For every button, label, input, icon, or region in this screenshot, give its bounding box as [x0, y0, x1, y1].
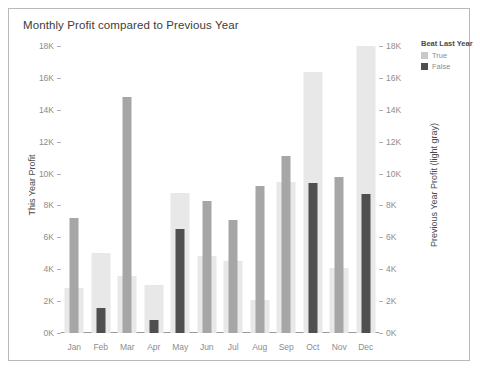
- x-axis-label-oct: Oct: [306, 342, 319, 352]
- right-axis-tick-label: 18K: [386, 41, 401, 51]
- left-axis-tick-label: 14K: [39, 105, 54, 115]
- left-axis-tick-mark: [57, 333, 61, 334]
- this-year-bar[interactable]: [202, 201, 211, 333]
- legend-swatch-icon: [421, 52, 428, 59]
- x-axis-label-jan: Jan: [67, 342, 81, 352]
- right-axis-tick-label: 2K: [386, 296, 396, 306]
- this-year-bar[interactable]: [70, 218, 79, 333]
- x-axis-label-aug: Aug: [252, 342, 267, 352]
- this-year-bar[interactable]: [282, 156, 291, 333]
- bar-slot-aug[interactable]: Aug: [247, 46, 274, 333]
- left-axis-tick-label: 8K: [44, 200, 54, 210]
- this-year-bar[interactable]: [229, 220, 238, 333]
- legend-item-false[interactable]: False: [421, 62, 480, 71]
- left-axis-title: This Year Profit: [27, 154, 37, 215]
- left-axis-tick-label: 6K: [44, 232, 54, 242]
- this-year-bar[interactable]: [176, 229, 185, 333]
- x-axis-label-sep: Sep: [279, 342, 294, 352]
- this-year-bar[interactable]: [335, 177, 344, 333]
- bar-slot-dec[interactable]: Dec: [353, 46, 380, 333]
- right-axis-tick-label: 6K: [386, 232, 396, 242]
- x-axis-label-dec: Dec: [358, 342, 373, 352]
- bar-slot-jun[interactable]: Jun: [194, 46, 221, 333]
- this-year-bar[interactable]: [308, 183, 317, 333]
- bar-slot-nov[interactable]: Nov: [326, 46, 353, 333]
- legend-item-label: True: [432, 51, 447, 60]
- legend-items: TrueFalse: [421, 51, 480, 71]
- left-axis-tick-label: 10K: [39, 169, 54, 179]
- x-axis-label-jul: Jul: [228, 342, 239, 352]
- chart-frame: Monthly Profit compared to Previous Year…: [8, 8, 470, 361]
- left-axis-tick-label: 16K: [39, 73, 54, 83]
- this-year-bar[interactable]: [96, 308, 105, 334]
- right-axis-tick-mark: [379, 333, 383, 334]
- x-axis-label-jun: Jun: [200, 342, 214, 352]
- right-axis-tick-label: 12K: [386, 137, 401, 147]
- legend-title: Beat Last Year: [421, 39, 480, 48]
- left-axis-tick-label: 18K: [39, 41, 54, 51]
- right-axis-tick-label: 0K: [386, 328, 396, 338]
- left-axis-tick-label: 12K: [39, 137, 54, 147]
- bar-slot-oct[interactable]: Oct: [300, 46, 327, 333]
- x-axis-label-feb: Feb: [93, 342, 108, 352]
- bar-slot-may[interactable]: May: [167, 46, 194, 333]
- this-year-bar[interactable]: [255, 186, 264, 333]
- right-axis-tick-label: 14K: [386, 105, 401, 115]
- legend-item-label: False: [432, 62, 450, 71]
- right-axis-tick-label: 10K: [386, 169, 401, 179]
- this-year-bar[interactable]: [123, 97, 132, 333]
- legend-item-true[interactable]: True: [421, 51, 480, 60]
- bar-slot-sep[interactable]: Sep: [273, 46, 300, 333]
- right-axis-tick-mark: [379, 110, 383, 111]
- right-axis-tick-label: 4K: [386, 264, 396, 274]
- right-axis-tick-mark: [379, 174, 383, 175]
- legend-swatch-icon: [421, 63, 428, 70]
- right-axis-tick-mark: [379, 269, 383, 270]
- legend: Beat Last Year TrueFalse: [421, 39, 480, 73]
- right-axis-tick-mark: [379, 46, 383, 47]
- bar-slot-feb[interactable]: Feb: [88, 46, 115, 333]
- right-axis-tick-mark: [379, 78, 383, 79]
- this-year-bar[interactable]: [361, 194, 370, 333]
- x-axis-label-nov: Nov: [332, 342, 347, 352]
- bar-slot-mar[interactable]: Mar: [114, 46, 141, 333]
- bar-slot-jul[interactable]: Jul: [220, 46, 247, 333]
- x-axis-label-apr: Apr: [147, 342, 160, 352]
- right-axis-tick-mark: [379, 237, 383, 238]
- right-axis-tick-mark: [379, 205, 383, 206]
- plot-area: 18K16K14K12K10K8K6K4K2K0K 18K16K14K12K10…: [61, 46, 379, 333]
- left-axis-tick-label: 0K: [44, 328, 54, 338]
- right-axis-tick-mark: [379, 301, 383, 302]
- left-axis-tick-label: 4K: [44, 264, 54, 274]
- right-axis-tick-label: 8K: [386, 200, 396, 210]
- right-axis-tick-label: 16K: [386, 73, 401, 83]
- left-axis-tick-label: 2K: [44, 296, 54, 306]
- right-axis-title: Previous Year Profit (light gray): [429, 122, 439, 246]
- x-axis-label-mar: Mar: [120, 342, 135, 352]
- x-axis-label-may: May: [172, 342, 188, 352]
- right-axis-tick-mark: [379, 142, 383, 143]
- this-year-bar[interactable]: [149, 320, 158, 333]
- bar-slot-apr[interactable]: Apr: [141, 46, 168, 333]
- bar-slot-jan[interactable]: Jan: [61, 46, 88, 333]
- chart-title: Monthly Profit compared to Previous Year: [23, 19, 239, 31]
